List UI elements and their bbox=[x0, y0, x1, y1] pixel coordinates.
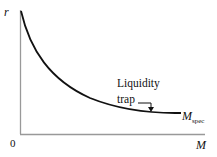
annotation-line1: Liquidity bbox=[117, 78, 160, 90]
money-demand-curve bbox=[21, 11, 181, 113]
curve-label-main: M bbox=[182, 109, 192, 123]
curve-label: Mspec bbox=[182, 107, 204, 123]
origin-label: 0 bbox=[10, 138, 16, 149]
money-demand-diagram bbox=[0, 0, 217, 157]
curve-label-subscript: spec bbox=[192, 117, 204, 125]
annotation-line2: trap bbox=[117, 94, 135, 106]
x-axis-label: M bbox=[196, 139, 206, 151]
y-axis-label: r bbox=[4, 6, 9, 18]
